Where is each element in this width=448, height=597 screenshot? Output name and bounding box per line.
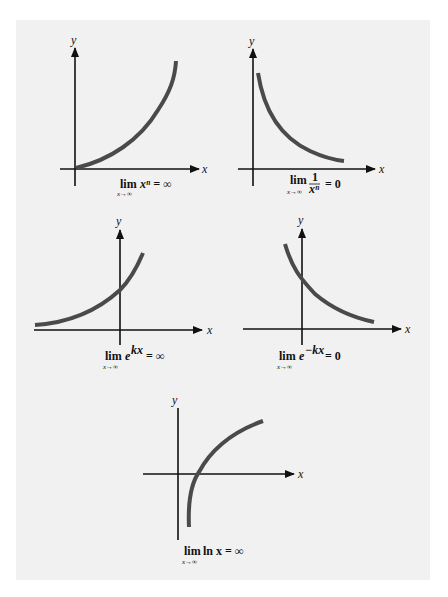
caption-sub: x→∞ xyxy=(181,558,197,566)
caption-lim: lim xyxy=(279,349,296,363)
caption-body: xⁿ = ∞ xyxy=(139,177,172,191)
x-axis-label: x xyxy=(404,322,411,336)
caption-sub: x→∞ xyxy=(102,363,118,371)
plot-exp-decay: y x lim x→∞ e −kx = 0 xyxy=(243,213,411,371)
plot-exp-growth: y x lim x→∞ e kx = ∞ xyxy=(34,214,213,371)
caption-rest: = ∞ xyxy=(146,349,165,363)
caption-lim: lim xyxy=(105,349,122,363)
caption-sub: x→∞ xyxy=(286,188,302,196)
caption-lim: lim xyxy=(184,544,201,558)
limits-figure: y x lim x→∞ xⁿ = ∞ y x lim x→∞ 1 xⁿ = 0 … xyxy=(0,0,448,597)
caption-rest: = 0 xyxy=(325,349,341,363)
curve-power xyxy=(76,61,176,168)
x-axis-label: x xyxy=(297,467,304,481)
caption-sup: −kx xyxy=(305,343,324,357)
caption-body: ln x = ∞ xyxy=(203,544,244,558)
y-axis-label: y xyxy=(248,34,255,48)
plot-reciprocal-power: y x lim x→∞ 1 xⁿ = 0 xyxy=(238,34,385,196)
caption-sup: kx xyxy=(131,343,143,357)
caption-sub: x→∞ xyxy=(116,190,132,198)
caption-lim: lim xyxy=(120,177,137,191)
x-axis-label: x xyxy=(378,162,385,176)
caption-sub: x→∞ xyxy=(276,363,292,371)
caption-denominator: xⁿ xyxy=(308,182,320,196)
plot-power: y x lim x→∞ xⁿ = ∞ xyxy=(60,33,208,198)
curve-exp-decay xyxy=(285,244,374,322)
y-axis-label: y xyxy=(297,213,304,227)
curve-reciprocal-power-main xyxy=(258,73,344,161)
y-axis-label: y xyxy=(115,214,122,228)
caption-rest: = 0 xyxy=(325,177,341,191)
x-axis-label: x xyxy=(206,323,213,337)
y-axis-label: y xyxy=(171,393,178,407)
curve-exp-growth xyxy=(35,253,143,325)
x-axis-label: x xyxy=(201,162,208,176)
plot-log: y x lim x→∞ ln x = ∞ xyxy=(143,393,304,566)
caption-lim: lim xyxy=(290,173,307,187)
y-axis-label: y xyxy=(70,33,77,47)
